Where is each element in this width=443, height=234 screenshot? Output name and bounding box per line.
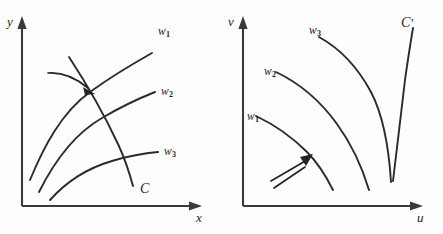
y-axis-arrowhead bbox=[17, 16, 26, 29]
direction-arrow-shaft bbox=[48, 73, 88, 88]
left-panel: y x w1 w2 w3 C bbox=[0, 0, 222, 234]
curve-label-w3-sub: 3 bbox=[172, 150, 176, 159]
left-y-axis-label: y bbox=[7, 15, 13, 28]
curve-label-w2-base: w bbox=[264, 65, 272, 77]
curve-label-w1-base: w bbox=[247, 110, 255, 122]
direction-arrow-head bbox=[300, 154, 313, 166]
curve-label-w3-base: w bbox=[164, 145, 172, 157]
curve-w1 bbox=[256, 116, 333, 190]
curve-w2 bbox=[39, 92, 155, 192]
left-panel-canvas bbox=[0, 0, 222, 234]
curve-w1 bbox=[30, 53, 152, 180]
curve-label-w3-base: w bbox=[309, 24, 317, 36]
curve-label-c-prime-mark: ′ bbox=[410, 15, 413, 30]
curve-label-w2: w2 bbox=[161, 86, 173, 99]
duality-figure: y x w1 w2 w3 C bbox=[0, 0, 443, 234]
curve-label-w2-base: w bbox=[161, 85, 169, 97]
right-u-axis-label: u bbox=[417, 211, 424, 224]
curve-label-w3: w3 bbox=[164, 146, 176, 159]
v-axis-arrowhead bbox=[238, 16, 247, 29]
curve-label-c-prime: C′ bbox=[401, 16, 413, 30]
curve-label-w2: w2 bbox=[264, 66, 276, 79]
curve-label-w2-sub: 2 bbox=[169, 90, 173, 99]
curve-label-w2-sub: 2 bbox=[272, 70, 276, 79]
curve-label-c-prime-base: C bbox=[401, 15, 410, 30]
curve-label-c: C bbox=[140, 182, 149, 196]
curve-c-prime bbox=[393, 28, 413, 181]
left-direction-arrow bbox=[48, 73, 95, 95]
right-v-axis-label: v bbox=[228, 15, 234, 28]
curve-label-w3-sub: 3 bbox=[317, 29, 321, 38]
curve-label-w3: w3 bbox=[309, 25, 321, 38]
left-x-axis-label: x bbox=[196, 211, 202, 224]
right-direction-arrow bbox=[271, 154, 313, 188]
curve-c bbox=[69, 57, 133, 186]
curve-label-w1: w1 bbox=[247, 111, 259, 124]
curve-label-w1-sub: 1 bbox=[166, 30, 170, 39]
curve-label-w1-base: w bbox=[158, 25, 166, 37]
curve-w3 bbox=[319, 37, 391, 182]
curve-label-w1-sub: 1 bbox=[255, 115, 259, 124]
right-panel: v u w1 w2 w3 C′ bbox=[221, 0, 443, 234]
curve-label-w1: w1 bbox=[158, 26, 170, 39]
